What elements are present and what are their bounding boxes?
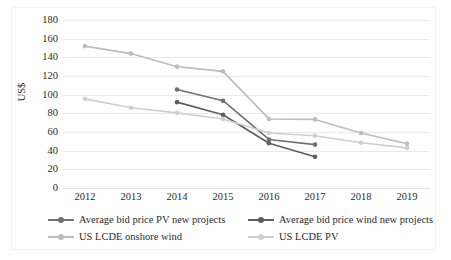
data-point-marker bbox=[359, 140, 364, 145]
data-point-marker bbox=[313, 142, 318, 147]
series-3 bbox=[83, 97, 410, 151]
data-series-layer bbox=[62, 20, 430, 188]
legend-dot bbox=[258, 217, 264, 223]
data-point-marker bbox=[175, 100, 180, 105]
x-tick-label: 2016 bbox=[246, 191, 292, 202]
legend-dot bbox=[58, 234, 64, 240]
data-point-marker bbox=[221, 69, 226, 74]
legend-item[interactable]: Average bid price PV new projects bbox=[48, 214, 248, 225]
y-axis-ticks: 020406080100120140160180 bbox=[26, 20, 58, 188]
legend-dot bbox=[58, 217, 64, 223]
chart-legend: Average bid price PV new projectsAverage… bbox=[48, 211, 438, 245]
y-tick-label: 40 bbox=[28, 146, 58, 156]
y-tick-label: 160 bbox=[28, 34, 58, 44]
y-tick-label: 100 bbox=[28, 90, 58, 100]
plot-area bbox=[62, 20, 430, 188]
legend-item[interactable]: US LCDE onshore wind bbox=[48, 231, 248, 242]
data-point-marker bbox=[267, 117, 272, 122]
series-2 bbox=[83, 44, 410, 146]
data-point-marker bbox=[313, 154, 318, 159]
series-1 bbox=[175, 100, 318, 159]
data-point-marker bbox=[405, 146, 410, 151]
y-tick-label: 0 bbox=[28, 183, 58, 193]
data-point-marker bbox=[221, 112, 226, 117]
y-axis-label: US$ bbox=[16, 83, 27, 102]
series-line bbox=[85, 99, 407, 148]
series-line bbox=[177, 90, 315, 145]
data-point-marker bbox=[313, 133, 318, 138]
y-tick-label: 180 bbox=[28, 15, 58, 25]
legend-marker-icon bbox=[48, 232, 74, 242]
series-line bbox=[177, 102, 315, 157]
legend-label: Average bid price PV new projects bbox=[79, 214, 225, 225]
legend-marker-icon bbox=[248, 232, 274, 242]
x-tick-label: 2017 bbox=[292, 191, 338, 202]
data-point-marker bbox=[129, 51, 134, 56]
data-point-marker bbox=[267, 131, 272, 136]
data-point-marker bbox=[359, 131, 364, 136]
legend-label: Average bid price wind new projects bbox=[279, 214, 433, 225]
legend-label: US LCDE onshore wind bbox=[79, 231, 182, 242]
x-tick-label: 2015 bbox=[200, 191, 246, 202]
data-point-marker bbox=[129, 105, 134, 110]
y-tick-label: 20 bbox=[28, 164, 58, 174]
legend-marker-icon bbox=[248, 215, 274, 225]
legend-item[interactable]: US LCDE PV bbox=[248, 231, 438, 242]
x-tick-label: 2013 bbox=[108, 191, 154, 202]
x-tick-label: 2018 bbox=[338, 191, 384, 202]
x-axis-ticks: 20122013201420152016201720182019 bbox=[62, 191, 430, 207]
data-point-marker bbox=[405, 141, 410, 146]
chart-figure: US$ 020406080100120140160180 20122013201… bbox=[0, 0, 451, 260]
data-point-marker bbox=[313, 117, 318, 122]
data-point-marker bbox=[83, 44, 88, 49]
legend-marker-icon bbox=[48, 215, 74, 225]
legend-label: US LCDE PV bbox=[279, 231, 339, 242]
data-point-marker bbox=[175, 87, 180, 92]
x-tick-label: 2014 bbox=[154, 191, 200, 202]
x-tick-label: 2019 bbox=[384, 191, 430, 202]
y-tick-label: 120 bbox=[28, 71, 58, 81]
y-tick-label: 80 bbox=[28, 108, 58, 118]
data-point-marker bbox=[175, 111, 180, 116]
gridline bbox=[62, 188, 430, 189]
y-tick-label: 140 bbox=[28, 52, 58, 62]
data-point-marker bbox=[221, 98, 226, 103]
data-point-marker bbox=[175, 64, 180, 69]
data-point-marker bbox=[267, 141, 272, 146]
legend-dot bbox=[258, 234, 264, 240]
data-point-marker bbox=[221, 117, 226, 122]
legend-item[interactable]: Average bid price wind new projects bbox=[248, 214, 438, 225]
data-point-marker bbox=[83, 97, 88, 102]
x-tick-label: 2012 bbox=[62, 191, 108, 202]
y-tick-label: 60 bbox=[28, 127, 58, 137]
